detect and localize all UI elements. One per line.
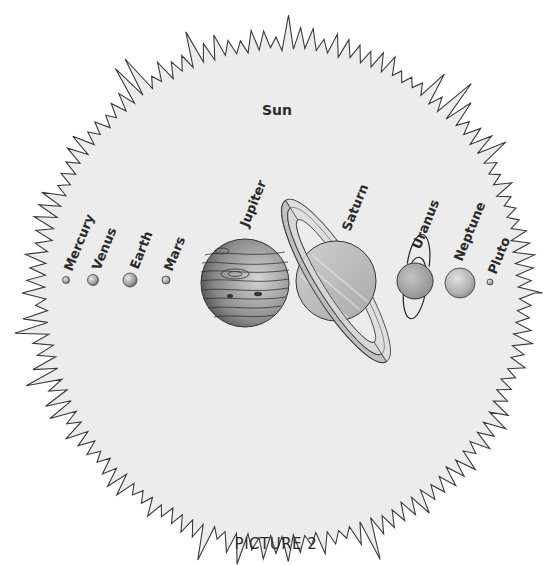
figure-caption: PICTURE 2 [0, 535, 552, 553]
sun-label: Sun [262, 102, 292, 118]
solar-system-diagram: Sun Mercury Venus Earth Mars [0, 0, 552, 565]
